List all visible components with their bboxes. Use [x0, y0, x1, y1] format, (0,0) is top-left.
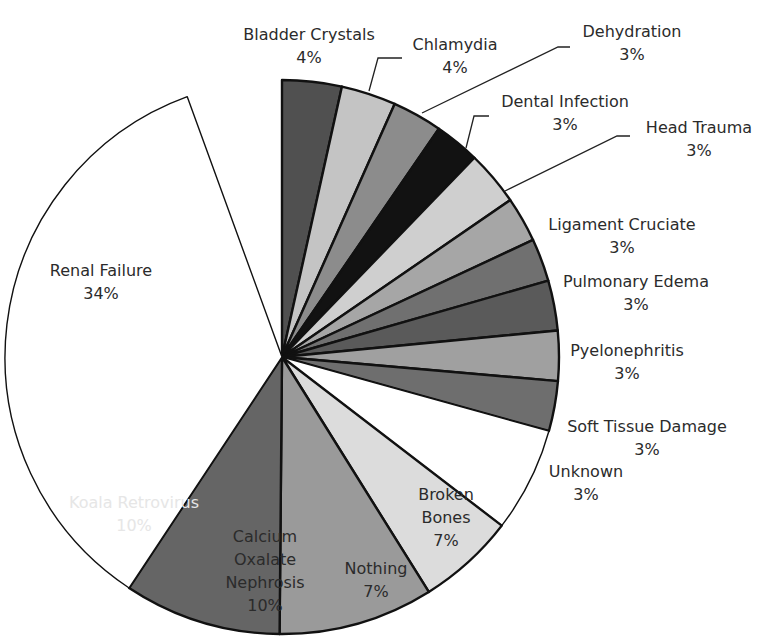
slice-label-bladder-crystals: Bladder Crystals4%	[243, 25, 374, 67]
slice-percent: 10%	[116, 516, 152, 535]
slice-label-ligament-cruciate: Ligament Cruciate3%	[548, 215, 695, 257]
slice-name: Ligament Cruciate	[548, 215, 695, 234]
pie-chart: Bladder Crystals4%Chlamydia4%Dehydration…	[0, 0, 769, 643]
slice-name: Dental Infection	[501, 92, 629, 111]
slice-name: Head Trauma	[646, 118, 752, 137]
slice-name: Chlamydia	[412, 35, 497, 54]
slice-name: Dehydration	[583, 22, 682, 41]
leader-line-chlamydia	[369, 58, 402, 91]
slice-name: Nephrosis	[225, 573, 304, 592]
slice-percent: 3%	[614, 364, 639, 383]
slice-label-pyelonephritis: Pyelonephritis3%	[570, 341, 684, 383]
slice-name: Pulmonary Edema	[563, 272, 709, 291]
slice-percent: 3%	[609, 238, 634, 257]
slice-percent: 3%	[552, 115, 577, 134]
slice-label-pulmonary-edema: Pulmonary Edema3%	[563, 272, 709, 314]
slice-name: Broken	[418, 485, 474, 504]
slice-label-soft-tissue-damage: Soft Tissue Damage3%	[567, 417, 727, 459]
leader-line-head-trauma	[505, 136, 630, 191]
slice-label-chlamydia: Chlamydia4%	[412, 35, 497, 77]
slice-percent: 10%	[247, 596, 283, 615]
slice-percent: 3%	[634, 440, 659, 459]
slice-name: Oxalate	[234, 550, 296, 569]
slice-name: Pyelonephritis	[570, 341, 684, 360]
slice-name: Koala Retrovirus	[69, 493, 199, 512]
slice-name: Unknown	[549, 462, 623, 481]
slice-percent: 3%	[619, 45, 644, 64]
slice-name: Bladder Crystals	[243, 25, 374, 44]
slice-name: Calcium	[233, 527, 297, 546]
slice-name: Renal Failure	[50, 261, 152, 280]
slice-label-dehydration: Dehydration3%	[583, 22, 682, 64]
slice-name: Soft Tissue Damage	[567, 417, 727, 436]
slice-percent: 7%	[433, 531, 458, 550]
slice-label-dental-infection: Dental Infection3%	[501, 92, 629, 134]
slice-percent: 4%	[442, 58, 467, 77]
slice-name: Nothing	[345, 559, 408, 578]
slice-percent: 3%	[623, 295, 648, 314]
slice-percent: 4%	[296, 48, 321, 67]
slice-percent: 7%	[363, 582, 388, 601]
slice-percent: 34%	[83, 284, 119, 303]
slice-percent: 3%	[573, 485, 598, 504]
slice-label-head-trauma: Head Trauma3%	[646, 118, 752, 160]
slice-label-unknown: Unknown3%	[549, 462, 623, 504]
slice-percent: 3%	[686, 141, 711, 160]
slice-name: Bones	[421, 508, 470, 527]
leader-line-dental-infection	[466, 116, 489, 148]
